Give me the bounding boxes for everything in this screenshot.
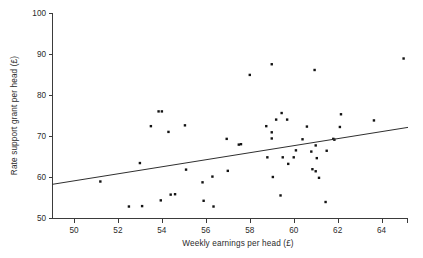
data-point xyxy=(212,205,214,207)
data-point xyxy=(184,124,186,126)
data-point xyxy=(310,150,312,152)
data-point xyxy=(271,137,273,139)
y-tick-label: 90 xyxy=(37,50,47,59)
data-point xyxy=(315,170,317,172)
y-tick-label: 70 xyxy=(37,132,47,141)
scatter-plot-figure: 50607080901005052545658606264 Weekly ear… xyxy=(0,0,423,258)
data-point xyxy=(202,200,204,202)
data-point xyxy=(272,176,274,178)
data-point xyxy=(174,193,176,195)
data-point xyxy=(185,168,187,170)
data-point xyxy=(249,74,251,76)
x-tick-label: 50 xyxy=(69,226,79,235)
data-point xyxy=(287,163,289,165)
x-tick-label: 62 xyxy=(333,226,343,235)
data-point xyxy=(313,69,315,71)
data-point xyxy=(275,118,277,120)
data-point xyxy=(311,168,313,170)
x-tick-label: 52 xyxy=(113,226,123,235)
y-tick-label: 60 xyxy=(37,173,47,182)
data-point xyxy=(238,143,240,145)
axes-group: 50607080901005052545658606264 xyxy=(32,9,408,235)
x-axis-title: Weekly earnings per head (£) xyxy=(182,239,294,248)
data-point xyxy=(340,113,342,115)
data-point xyxy=(99,180,101,182)
y-tick-label: 80 xyxy=(37,91,47,100)
x-tick-label: 54 xyxy=(157,226,167,235)
data-point xyxy=(226,138,228,140)
data-point xyxy=(279,194,281,196)
data-point xyxy=(266,156,268,158)
data-point xyxy=(339,126,341,128)
y-tick-label: 100 xyxy=(32,9,46,18)
data-point xyxy=(301,138,303,140)
data-point xyxy=(315,144,317,146)
regression-line xyxy=(52,127,408,184)
x-tick-label: 60 xyxy=(289,226,299,235)
data-point xyxy=(201,181,203,183)
data-point xyxy=(150,125,152,127)
x-tick-label: 56 xyxy=(201,226,211,235)
data-point xyxy=(167,131,169,133)
y-axis-title: Rate support grant per head (£) xyxy=(10,56,19,175)
data-point xyxy=(157,110,159,112)
data-point xyxy=(141,205,143,207)
x-tick-label: 58 xyxy=(245,226,255,235)
data-point xyxy=(324,201,326,203)
data-point xyxy=(282,156,284,158)
data-point xyxy=(227,170,229,172)
datapoints-group xyxy=(99,57,405,207)
x-tick-label: 64 xyxy=(377,226,387,235)
data-point xyxy=(240,143,242,145)
data-point xyxy=(295,149,297,151)
data-point xyxy=(306,125,308,127)
data-point xyxy=(318,177,320,179)
data-point xyxy=(160,199,162,201)
data-point xyxy=(271,63,273,65)
data-point xyxy=(402,57,404,59)
data-point xyxy=(316,157,318,159)
data-point xyxy=(211,175,213,177)
data-point xyxy=(325,150,327,152)
regression-line-group xyxy=(52,127,408,184)
data-point xyxy=(265,125,267,127)
data-point xyxy=(271,131,273,133)
data-point xyxy=(286,118,288,120)
data-point xyxy=(161,110,163,112)
data-point xyxy=(169,193,171,195)
y-tick-label: 50 xyxy=(37,214,47,223)
plot-canvas: 50607080901005052545658606264 Weekly ear… xyxy=(0,0,423,258)
data-point xyxy=(293,156,295,158)
data-point xyxy=(280,112,282,114)
data-point xyxy=(139,162,141,164)
data-point xyxy=(128,205,130,207)
data-point xyxy=(373,119,375,121)
